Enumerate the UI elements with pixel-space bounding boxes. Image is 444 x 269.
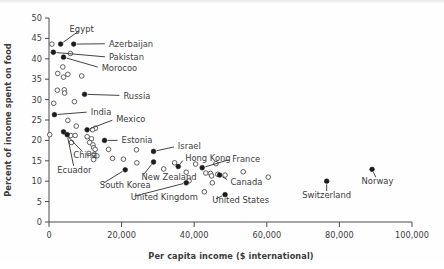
leader-line xyxy=(157,147,174,151)
data-point-unlabeled xyxy=(204,171,209,176)
data-point-unlabeled xyxy=(55,71,60,76)
data-point-unlabeled xyxy=(50,42,55,47)
data-point-unlabeled xyxy=(66,72,71,77)
leader-line xyxy=(90,120,112,128)
leader-line xyxy=(58,112,87,114)
data-point-unlabeled xyxy=(161,167,166,172)
x-axis: 020,00040,00060,00080,000100,000 xyxy=(46,222,429,240)
y-axis-tick-label: 40 xyxy=(32,54,42,64)
data-point-labeled xyxy=(71,42,76,47)
x-axis-tick-label: 0 xyxy=(46,230,51,240)
leader-line xyxy=(88,94,120,95)
data-point-label: Israel xyxy=(178,141,201,151)
data-point-labeled xyxy=(200,165,205,170)
data-point-unlabeled xyxy=(135,161,140,166)
data-point-unlabeled xyxy=(51,101,56,106)
data-point-label: India xyxy=(91,107,112,117)
data-point-label: United Kingdom xyxy=(131,192,198,202)
data-point-labeled xyxy=(85,127,90,132)
data-point-unlabeled xyxy=(47,132,52,137)
y-axis-tick-label: 10 xyxy=(32,176,42,186)
data-point-label: Ecuador xyxy=(57,165,92,175)
data-point-label: France xyxy=(232,154,260,164)
x-axis-tick-label: 60,000 xyxy=(252,230,281,240)
data-point-labeled xyxy=(217,173,222,178)
x-axis-tick-label: 40,000 xyxy=(180,230,209,240)
y-axis-tick-label: 15 xyxy=(32,156,42,166)
x-axis-tick-label: 20,000 xyxy=(107,230,136,240)
data-point-label: Mexico xyxy=(116,114,145,124)
data-point-unlabeled xyxy=(210,181,215,186)
data-point-labeled xyxy=(324,179,329,184)
data-point-unlabeled xyxy=(202,190,207,195)
data-point-unlabeled xyxy=(61,75,66,80)
data-point-unlabeled xyxy=(110,156,115,161)
leader-line xyxy=(180,161,183,164)
x-axis-tick-label: 100,000 xyxy=(395,230,429,240)
data-point-label: Russia xyxy=(123,91,150,101)
data-point-unlabeled xyxy=(266,175,271,180)
data-point-labeled xyxy=(82,92,87,97)
y-axis-tick-label: 45 xyxy=(32,33,42,43)
data-point-labeled xyxy=(58,42,63,47)
data-point-unlabeled xyxy=(73,133,78,138)
data-point-unlabeled xyxy=(72,99,77,104)
data-point-unlabeled xyxy=(66,118,71,123)
data-point-unlabeled xyxy=(223,173,228,178)
data-point-labeled xyxy=(65,132,70,137)
data-point-labeled xyxy=(102,138,107,143)
data-point-label: China xyxy=(73,150,97,160)
data-point-unlabeled xyxy=(62,91,67,96)
data-point-unlabeled xyxy=(79,74,84,79)
data-point-unlabeled xyxy=(121,157,126,162)
data-point-label: South Korea xyxy=(100,180,151,190)
data-point-label: Switzerland xyxy=(302,190,351,200)
data-point-labeled xyxy=(151,149,156,154)
data-point-label: Azerbaijan xyxy=(109,39,153,49)
data-point-labeled xyxy=(52,112,57,117)
data-point-unlabeled xyxy=(55,88,60,93)
data-point-labeled xyxy=(370,167,375,172)
data-point-labeled xyxy=(123,167,128,172)
data-point-label: Morocoo xyxy=(102,63,138,73)
data-point-label: Pakistan xyxy=(109,52,144,62)
chart-canvas: 05101520253035404550 020,00040,00060,000… xyxy=(0,0,444,269)
data-point-unlabeled xyxy=(106,147,111,152)
data-point-label: Canada xyxy=(231,177,263,187)
data-point-labeled xyxy=(151,160,156,165)
data-point-unlabeled xyxy=(74,124,79,129)
data-point-unlabeled xyxy=(209,174,214,179)
data-point-labeled xyxy=(61,55,66,60)
data-point-label: Norway xyxy=(362,176,394,186)
y-axis-tick-label: 5 xyxy=(37,197,42,207)
y-axis-tick-label: 50 xyxy=(32,13,42,23)
data-point-label: Hong Kong xyxy=(185,153,231,163)
data-point-label: Estonia xyxy=(122,135,153,145)
y-axis-tick-label: 25 xyxy=(32,115,42,125)
y-axis-title: Percent of income spent on food xyxy=(3,43,13,197)
data-point-label: United States xyxy=(212,195,269,205)
data-point-unlabeled xyxy=(60,65,65,70)
data-point-unlabeled xyxy=(172,161,177,166)
data-point-unlabeled xyxy=(85,134,90,139)
data-point-labeled xyxy=(176,164,181,169)
x-axis-title: Per capita income ($ international) xyxy=(148,251,314,261)
data-point-label: Egypt xyxy=(70,24,95,34)
y-axis-tick-label: 30 xyxy=(32,95,42,105)
y-axis-tick-label: 20 xyxy=(32,135,42,145)
data-point-unlabeled xyxy=(134,147,139,152)
scatter-plot-figure: 05101520253035404550 020,00040,00060,000… xyxy=(0,0,444,269)
y-axis-tick-label: 0 xyxy=(37,217,42,227)
y-axis: 05101520253035404550 xyxy=(32,13,49,227)
y-axis-tick-label: 35 xyxy=(32,74,42,84)
leader-line xyxy=(67,58,98,67)
data-point-unlabeled xyxy=(241,170,246,175)
data-point-labeled xyxy=(51,50,56,55)
x-axis-tick-label: 80,000 xyxy=(325,230,354,240)
